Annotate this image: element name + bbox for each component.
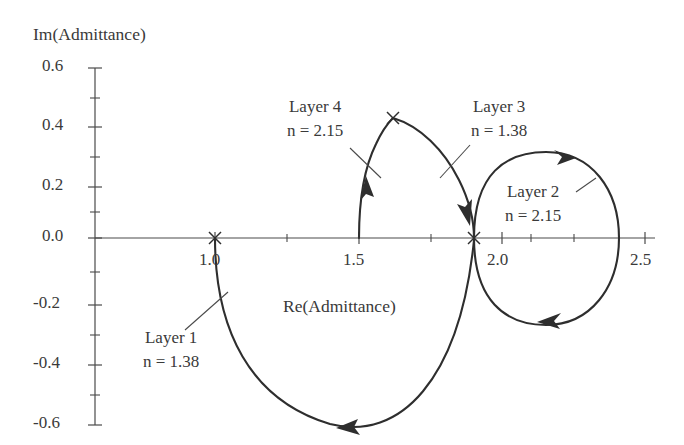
layer-3-path (393, 118, 474, 238)
admittance-plot-svg (0, 0, 684, 445)
annotation-layer-3: Layer 3 n = 1.38 (471, 95, 527, 143)
y-tick-label-0.4: 0.4 (42, 115, 63, 135)
x-tick-label-2.5: 2.5 (630, 250, 651, 270)
y-tick-label--0.4: -0.4 (33, 353, 60, 373)
annotation-layer-4-index: n = 2.15 (287, 119, 343, 143)
curve-layer-2 (474, 150, 619, 329)
y-tick-label--0.2: -0.2 (33, 293, 60, 313)
annotation-layer-2-index: n = 2.15 (505, 204, 561, 228)
layer-2-leader (576, 178, 596, 192)
annotation-layer-2: Layer 2 n = 2.15 (505, 180, 561, 228)
curve-layer-3 (393, 118, 474, 238)
x-tick-label-1.0: 1.0 (199, 250, 220, 270)
x-tick-label-2.0: 2.0 (487, 250, 508, 270)
y-axis-title: Im(Admittance) (33, 24, 146, 45)
marker-x-peak (387, 112, 399, 124)
x-axis-group (95, 232, 655, 244)
y-tick-label-0.0: 0.0 (42, 226, 63, 246)
layer-2-bottom-arrowhead (537, 313, 561, 329)
y-tick-label-0.2: 0.2 (42, 175, 63, 195)
annotation-layer-3-index: n = 1.38 (471, 119, 527, 143)
y-tick-label-0.6: 0.6 (42, 56, 63, 76)
annotation-layer-2-name: Layer 2 (505, 180, 561, 204)
annotation-layer-1-name: Layer 1 (143, 326, 199, 350)
curve-layer-4 (359, 118, 393, 238)
layer-1-leader (185, 292, 228, 330)
annotation-layer-3-name: Layer 3 (471, 95, 527, 119)
layer-4-path (359, 118, 393, 238)
annotation-layer-4-name: Layer 4 (287, 95, 343, 119)
layer-2-top-arrowhead (554, 150, 576, 165)
layer-3-arrowhead (457, 199, 472, 226)
data-markers (209, 112, 480, 244)
y-axis-group (88, 68, 102, 425)
admittance-diagram-figure: Im(Admittance) Re(Admittance) 0.6 0.4 0.… (0, 0, 684, 445)
annotation-layer-4: Layer 4 n = 2.15 (287, 95, 343, 143)
annotation-layer-1-index: n = 1.38 (143, 350, 199, 374)
annotation-layer-1: Layer 1 n = 1.38 (143, 326, 199, 374)
x-axis-title: Re(Admittance) (283, 296, 396, 317)
y-tick-label--0.6: -0.6 (33, 413, 60, 433)
x-tick-label-1.5: 1.5 (343, 250, 364, 270)
